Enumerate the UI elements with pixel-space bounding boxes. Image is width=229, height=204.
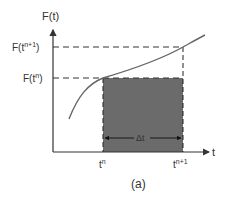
y-axis-label: F(t) (42, 10, 59, 22)
diagram-canvas: F(t) F(tn+1) F(tn) t tn tn+1 Δt (a) (0, 0, 229, 204)
x-axis-label: t (212, 146, 215, 158)
y-tick-fn1: F(tn+1) (12, 41, 39, 53)
x-tick-tn1: tn+1 (173, 158, 188, 170)
y-tick-fn: F(tn) (23, 72, 42, 84)
x-tick-tn: tn (99, 158, 106, 170)
figure-caption: (a) (131, 177, 146, 191)
diagram-figure: F(t) F(tn+1) F(tn) t tn tn+1 Δt (a) (0, 0, 229, 204)
delta-t-label: Δt (136, 133, 145, 143)
